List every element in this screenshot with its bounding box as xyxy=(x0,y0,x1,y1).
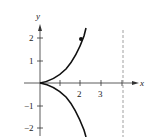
y-tick-neg1: −1 xyxy=(24,101,34,111)
y-tick-neg2: −2 xyxy=(24,123,34,133)
x-axis-arrow-icon xyxy=(132,81,139,85)
marked-point xyxy=(79,37,83,41)
x-axis-label: x xyxy=(139,78,144,88)
y-tick-2: 2 xyxy=(29,33,34,43)
y-axis-label: y xyxy=(35,11,40,21)
cissoid-graph: y x 2 3 2 1 −1 −2 xyxy=(0,0,149,137)
x-tick-3: 3 xyxy=(98,89,103,99)
y-axis-arrow-icon xyxy=(38,24,42,31)
upper-branch xyxy=(40,28,86,83)
x-tick-2: 2 xyxy=(77,89,82,99)
y-tick-1: 1 xyxy=(29,56,34,66)
